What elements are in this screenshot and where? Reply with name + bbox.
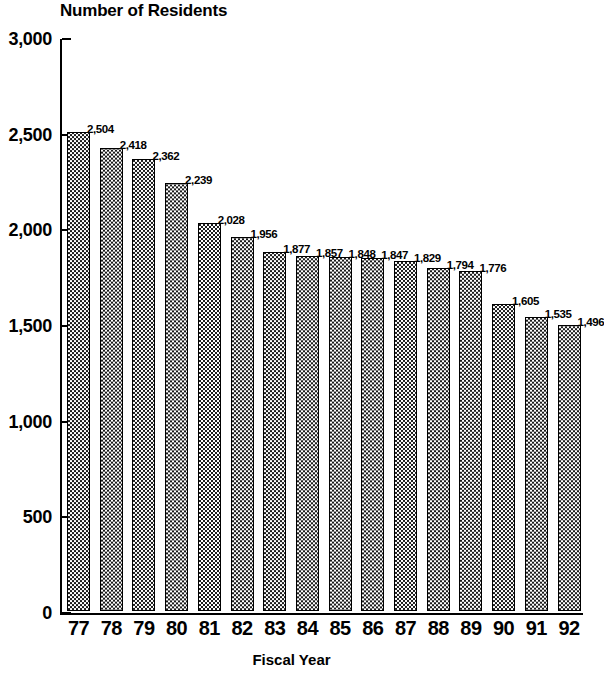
y-axis-tick-label: 1,000 [0, 411, 52, 432]
bar-value-label: 1,847 [381, 249, 408, 261]
bar-value-label: 1,956 [251, 228, 278, 240]
bar-value-label: 2,362 [152, 150, 179, 162]
chart-title: Number of Residents [60, 1, 227, 21]
bar-value-label: 2,418 [120, 139, 147, 151]
y-axis-tick-label: 1,500 [0, 316, 52, 337]
bar [165, 183, 188, 611]
bar-value-label: 1,857 [316, 247, 343, 259]
x-axis-tick-label: 84 [291, 617, 323, 640]
bar [492, 304, 515, 611]
y-axis-tick-label: 0 [0, 603, 52, 624]
bar [67, 132, 90, 611]
bar [132, 159, 155, 611]
y-axis-tick-label: 2,000 [0, 220, 52, 241]
bar [427, 268, 450, 611]
bar [558, 325, 581, 611]
x-axis-tick-label: 90 [488, 617, 520, 640]
y-axis-tick [62, 38, 71, 40]
bar-value-label: 1,496 [578, 316, 604, 328]
y-axis-tick-label: 3,000 [0, 29, 52, 50]
y-axis-tick-labels: 3,0002,5002,0001,5001,0005000 [0, 39, 52, 614]
bar [198, 223, 221, 611]
x-axis-tick-label: 88 [422, 617, 454, 640]
x-axis-tick-label: 86 [357, 617, 389, 640]
x-axis-tick-label: 87 [390, 617, 422, 640]
x-axis-tick-label: 78 [95, 617, 127, 640]
bar-value-label: 1,829 [414, 252, 441, 264]
y-axis-tick-label: 500 [0, 507, 52, 528]
y-axis-tick-label: 2,500 [0, 124, 52, 145]
x-axis-title: Fiscal Year [0, 651, 583, 668]
x-axis-tick-label: 91 [520, 617, 552, 640]
bar [263, 252, 286, 611]
bar-value-label: 2,028 [218, 214, 245, 226]
bar [459, 271, 482, 611]
bar [329, 257, 352, 611]
bar-value-label: 2,239 [185, 174, 212, 186]
x-axis-tick-label: 82 [226, 617, 258, 640]
bar-value-label: 1,535 [545, 308, 572, 320]
bar [361, 258, 384, 611]
bar-value-label: 1,776 [479, 262, 506, 274]
x-axis-tick-label: 79 [128, 617, 160, 640]
bar [525, 317, 548, 611]
y-axis-tick [62, 612, 71, 614]
bar-value-label: 1,605 [512, 295, 539, 307]
x-axis-line [60, 613, 583, 615]
bar-value-label: 2,504 [87, 123, 114, 135]
bar-value-label: 1,848 [349, 248, 376, 260]
bar [394, 261, 417, 611]
x-axis-tick-label: 85 [324, 617, 356, 640]
bar [100, 148, 123, 611]
x-axis-tick-label: 81 [193, 617, 225, 640]
x-axis-tick-labels: 77787980818283848586878889909192 [60, 617, 583, 647]
bar [231, 237, 254, 611]
x-axis-tick-label: 83 [259, 617, 291, 640]
x-axis-tick-label: 80 [161, 617, 193, 640]
bar-value-label: 1,877 [283, 243, 310, 255]
x-axis-tick-label: 89 [455, 617, 487, 640]
bar [296, 256, 319, 611]
bar-value-label: 1,794 [447, 259, 474, 271]
x-axis-tick-label: 77 [63, 617, 95, 640]
plot-area: 2,5042,4182,3622,2392,0281,9561,8771,857… [60, 39, 583, 613]
x-axis-tick-label: 92 [553, 617, 585, 640]
